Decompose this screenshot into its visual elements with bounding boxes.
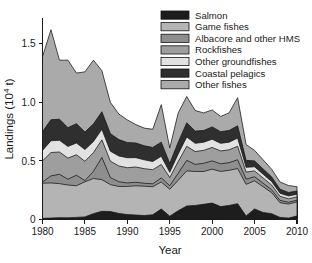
legend-swatch-other-groundfishes [161,57,189,65]
legend-swatch-other-fishes [161,81,189,89]
y-axis-ticks: 00.51.01.5 [22,38,43,225]
x-tick-label: 1985 [74,226,97,237]
x-tick-label: 1995 [159,226,182,237]
legend-swatch-game-fishes [161,23,189,31]
legend-label-albacore-and-other-hms: Albacore and other HMS [195,33,300,44]
x-axis-ticks: 1980198519901995200020052010 [31,220,308,237]
x-tick-label: 1990 [116,226,139,237]
legend-label-other-groundfishes: Other groundfishes [195,56,277,67]
x-tick-label: 2010 [286,226,309,237]
y-tick-label: 0.5 [22,156,36,167]
legend-swatch-salmon [161,11,189,19]
y-tick-label: 0 [30,214,36,225]
legend-label-rockfishes: Rockfishes [195,44,242,55]
y-axis-title: Landings (104 t) [2,78,15,159]
x-tick-label: 2000 [201,226,224,237]
y-tick-label: 1.5 [22,38,36,49]
x-axis-title: Year [158,244,181,256]
legend-label-salmon: Salmon [195,10,228,21]
y-tick-label: 1.0 [22,97,36,108]
legend-swatch-coastal-pelagics [161,69,189,77]
legend-label-other-fishes: Other fishes [195,79,247,90]
legend-swatch-rockfishes [161,46,189,54]
x-tick-label: 2005 [243,226,266,237]
stacked-area-chart: 00.51.01.5 1980198519901995200020052010 … [0,0,312,263]
legend-label-coastal-pelagics: Coastal pelagics [195,68,266,79]
legend: SalmonGame fishesAlbacore and other HMSR… [161,10,300,91]
legend-swatch-albacore-and-other-hms [161,34,189,42]
x-tick-label: 1980 [31,226,54,237]
chart-figure: 00.51.01.5 1980198519901995200020052010 … [0,0,312,263]
legend-label-game-fishes: Game fishes [195,21,249,32]
